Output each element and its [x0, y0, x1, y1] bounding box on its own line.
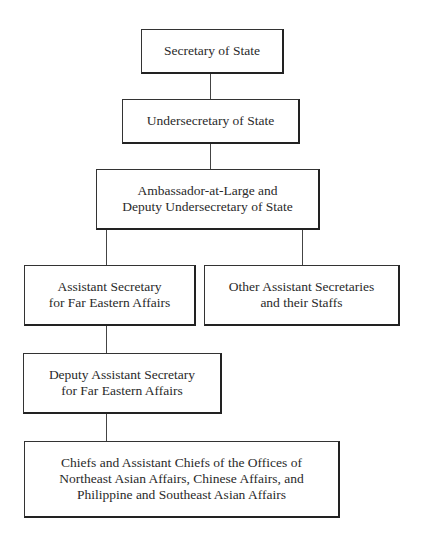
node-undersecretary-of-state: Undersecretary of State: [122, 99, 300, 144]
node-assistant-secretary-far-east: Assistant Secretary for Far Eastern Affa…: [24, 265, 196, 326]
node-label: Secretary of State: [164, 43, 260, 59]
node-office-chiefs: Chiefs and Assistant Chiefs of the Offic…: [24, 441, 340, 518]
node-deputy-assistant-secretary: Deputy Assistant Secretary for Far Easte…: [23, 353, 222, 414]
node-label: Deputy Assistant Secretary for Far Easte…: [49, 367, 195, 399]
node-label: Other Assistant Secretaries and their St…: [229, 279, 374, 311]
connector-undersecretary-ambassador: [210, 143, 211, 169]
connector-deputy-chiefs: [106, 413, 107, 441]
node-label: Chiefs and Assistant Chiefs of the Offic…: [59, 455, 303, 503]
connector-asst-deputy: [106, 325, 107, 353]
connector-ambassador-asst-far-east: [106, 229, 107, 265]
connector-secretary-undersecretary: [210, 73, 211, 99]
node-label: Assistant Secretary for Far Eastern Affa…: [49, 279, 171, 311]
node-other-assistant-secretaries: Other Assistant Secretaries and their St…: [204, 265, 400, 326]
node-label: Ambassador-at-Large and Deputy Undersecr…: [122, 183, 293, 215]
connector-ambassador-other-asst: [302, 229, 303, 265]
node-label: Undersecretary of State: [147, 113, 274, 129]
node-secretary-of-state: Secretary of State: [141, 29, 284, 74]
node-ambassador-at-large: Ambassador-at-Large and Deputy Undersecr…: [96, 169, 320, 230]
